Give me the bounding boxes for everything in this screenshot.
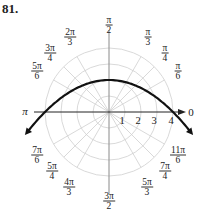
angle-label-pi-6: π6 [175,62,182,81]
angle-label-7pi-6: 7π6 [31,146,43,165]
angle-label-5pi-6: 5π6 [31,62,43,81]
angle-label-pi-3: π3 [145,28,152,47]
angle-label-3pi-4: 3π4 [44,44,56,63]
angle-label-5pi-3: 5π3 [141,178,153,197]
angle-label-5pi-4: 5π4 [46,162,58,181]
angle-label-pi-2: π2 [106,16,113,35]
angle-label-0: 0 [188,106,194,118]
radial-label-3: 3 [151,115,156,126]
angle-label-pi: π [22,105,28,117]
angle-label-4pi-3: 4π3 [63,178,75,197]
angle-label-3pi-2: 3π2 [103,192,115,211]
radial-label-1: 1 [119,115,124,126]
angle-label-pi-4: π4 [162,44,169,63]
polar-axis-arrow-icon [178,109,186,115]
radial-label-4: 4 [168,115,173,126]
radial-label-2: 2 [135,115,140,126]
polar-graph [0,0,207,216]
angle-label-11pi-6: 11π6 [170,146,186,165]
angle-label-2pi-3: 2π3 [64,28,76,47]
